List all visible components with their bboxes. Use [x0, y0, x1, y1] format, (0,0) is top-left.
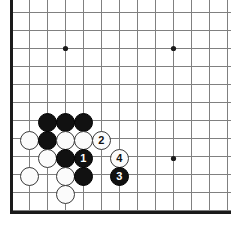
black-stone-move-1: 1 [74, 149, 93, 168]
white-stone-move-4: 4 [110, 149, 129, 168]
black-stone-f [74, 167, 93, 186]
white-stone-f [56, 167, 75, 186]
black-stone-move-3: 3 [110, 167, 129, 186]
stone-layer: 2143 [0, 0, 231, 226]
stone-move-number: 1 [80, 153, 86, 164]
white-stone-g [56, 185, 75, 204]
black-stone-a [38, 113, 57, 132]
black-stone-e [56, 149, 75, 168]
white-stone-a [20, 131, 39, 150]
white-stone-b [56, 131, 75, 150]
white-stone-c [74, 131, 93, 150]
stone-move-number: 2 [98, 135, 104, 146]
white-stone-e [20, 167, 39, 186]
black-stone-b [56, 113, 75, 132]
white-stone-d [38, 149, 57, 168]
stone-move-number: 4 [116, 153, 122, 164]
go-board-diagram: 2143 [0, 0, 231, 226]
black-stone-d [38, 131, 57, 150]
black-stone-c [74, 113, 93, 132]
white-stone-move-2: 2 [92, 131, 111, 150]
stone-move-number: 3 [116, 171, 122, 182]
